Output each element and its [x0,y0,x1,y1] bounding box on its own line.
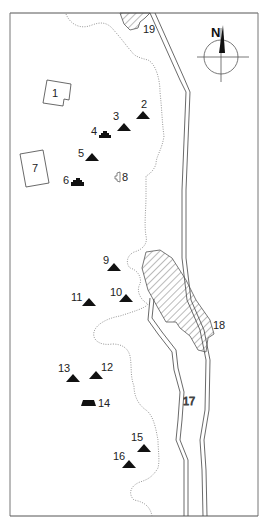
feature-label-18: 18 [213,319,225,331]
site-12: 12 [89,361,113,379]
site-label-13: 13 [58,362,70,374]
site-label-16: 16 [113,450,125,462]
site-16: 16 [113,450,136,468]
stepped-pyramid-icon [71,178,84,186]
site-3: 3 [113,110,131,131]
site-label-4: 4 [91,125,97,137]
site-label-11: 11 [71,291,82,303]
site-10: 10 [110,286,133,302]
triangle-mound-icon [85,153,99,161]
site-6: 6 [63,174,84,186]
triangle-mound-icon [117,123,131,131]
site-9: 9 [103,254,121,271]
site-label-6: 6 [63,174,69,186]
site-8: 8 [115,171,128,183]
triangle-mound-icon [82,298,96,306]
site-13: 13 [58,362,80,382]
site-5: 5 [78,147,99,161]
feature-label-19: 19 [143,23,155,35]
stepped-pyramid-icon [99,131,111,138]
triangle-mound-icon [66,374,80,382]
site-label-5: 5 [78,147,84,159]
platform-icon [81,400,96,406]
small-structure-icon [115,172,120,182]
site-label-14: 14 [98,397,110,409]
feature-label-17: 17 [183,395,195,407]
site-4: 4 [91,125,111,138]
archaeological-site-map: 19 18 17 N 1 7 2 3 [0,0,262,526]
site-15: 15 [131,431,151,452]
compass-north-label: N [211,25,220,40]
site-label-3: 3 [113,110,119,122]
site-label-7: 7 [32,162,38,174]
site-7-building: 7 [20,150,49,187]
triangle-mound-icon [137,444,151,452]
site-14: 14 [81,397,110,409]
north-arrow-compass: N [197,25,249,82]
site-label-12: 12 [101,361,113,373]
site-label-9: 9 [103,254,109,266]
triangle-mound-icon [136,111,150,119]
site-label-15: 15 [131,431,143,443]
site-label-8: 8 [122,171,128,183]
site-label-2: 2 [141,98,147,110]
site-1-building: 1 [43,80,71,106]
hatched-area-19: 19 [120,13,155,35]
site-2: 2 [136,98,150,119]
hatched-area-18: 18 [142,250,225,352]
site-label-1: 1 [52,87,58,99]
site-label-10: 10 [110,286,122,298]
site-11: 11 [71,291,96,306]
